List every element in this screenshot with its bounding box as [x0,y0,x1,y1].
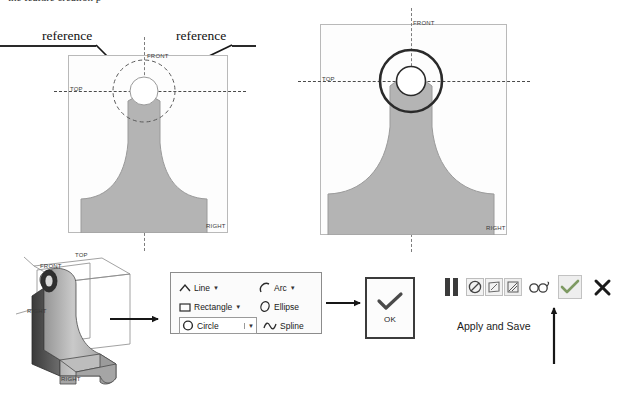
palette-item-arc[interactable]: Arc ▼ [259,282,296,293]
ok-button[interactable]: OK [365,277,415,339]
palette-item-line-label: Line [194,283,210,293]
palette-item-rectangle-label: Rectangle [194,302,232,312]
drawing-view-right[interactable]: FRONT TOP RIGHT [320,24,510,236]
palette-item-rectangle[interactable]: Rectangle ▼ [179,302,259,312]
checkmark-icon [377,293,403,311]
palette-item-circle[interactable]: Circle ▼ [179,317,257,334]
close-x-icon[interactable] [590,275,614,299]
flow-arrow-palette-to-ok [326,296,368,310]
palette-row: Rectangle ▼ Ellipse [179,297,313,316]
view-label-front-right: FRONT [413,20,435,26]
flow-arrow-model-to-palette [110,312,168,326]
sketch-tool-icon[interactable] [485,278,503,296]
drawing-view-left[interactable]: FRONT TOP RIGHT [68,55,228,234]
model-label-side: RIGHT [61,376,81,382]
rectangle-icon [179,302,191,312]
model-label-top: TOP [75,252,88,258]
glasses-icon[interactable] [528,277,552,297]
arc-icon [259,282,271,293]
palette-item-arc-label: Arc [274,283,287,293]
circle-icon [182,320,194,331]
line-icon [179,283,191,293]
no-entry-icon[interactable] [466,278,484,296]
section-tool-icon[interactable] [504,278,522,296]
apply-and-save-label: Apply and Save [457,320,531,332]
palette-item-circle-label: Circle [197,321,219,331]
model-label-right: RIGHT [27,308,47,314]
spline-icon [263,321,277,331]
view-label-right-right: RIGHT [486,225,506,231]
part-geometry-right [320,24,507,235]
palette-item-spline-label: Spline [280,321,304,331]
view-label-right-left: RIGHT [206,223,226,229]
part-geometry-left [68,55,228,233]
chevron-down-icon[interactable]: ▼ [244,323,254,329]
chevron-down-icon[interactable]: ▼ [235,304,241,310]
checkmark-icon[interactable] [558,275,582,299]
top-cut-heading-text: the feature creation p [8,0,208,3]
sketch-entity-palette[interactable]: Line ▼ Arc ▼ Rectangle ▼ Ellipse [170,272,322,334]
view-label-top-right: TOP [322,76,335,82]
palette-item-ellipse-label: Ellipse [274,302,299,312]
ok-button-label: OK [384,315,396,324]
palette-item-line[interactable]: Line ▼ [179,283,259,293]
view-label-front-left: FRONT [147,53,169,59]
palette-item-ellipse[interactable]: Ellipse [259,301,299,312]
palette-row: Circle ▼ Spline [179,316,313,335]
palette-row: Line ▼ Arc ▼ [179,278,313,297]
model-label-front: FRONT [40,263,62,269]
ellipse-icon [259,301,271,312]
chevron-down-icon[interactable]: ▼ [213,285,219,291]
palette-item-spline[interactable]: Spline [263,321,304,331]
chevron-down-icon[interactable]: ▼ [290,285,296,291]
command-toolbar[interactable] [442,272,614,302]
apply-save-callout-arrow [546,300,562,366]
pause-icon[interactable] [442,275,462,299]
view-label-top-left: TOP [70,86,83,92]
